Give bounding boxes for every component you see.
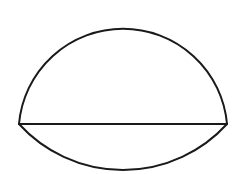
upper-arc (19, 29, 227, 124)
lower-arc (19, 124, 227, 170)
geometry-diagram (0, 0, 242, 174)
